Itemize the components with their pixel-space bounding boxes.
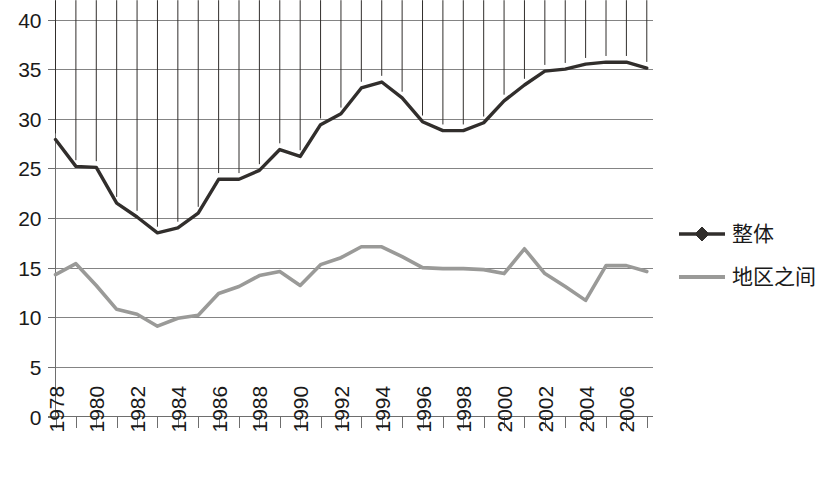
series-line [56,247,647,326]
chart-legend: 整体地区之间 [679,222,816,289]
x-axis-label-1996: 1996 [412,386,435,433]
y-axis-label-5: 5 [30,356,42,379]
x-axis-label-1992: 1992 [330,386,353,433]
y-axis-label-30: 30 [18,108,41,131]
x-axis-label-1998: 1998 [452,386,475,433]
chart-canvas: 0510152025303540 19781980198219841986198… [0,0,827,497]
x-axis-label-1988: 1988 [248,386,271,433]
y-axis-label-40: 40 [18,9,41,32]
y-axis-tick-labels: 0510152025303540 [18,9,41,429]
x-axis-label-1982: 1982 [126,386,149,433]
y-axis-label-20: 20 [18,207,41,230]
x-axis-label-2006: 2006 [615,386,638,433]
x-axis-label-1994: 1994 [371,385,394,432]
x-axis-label-1986: 1986 [208,386,231,433]
legend-item-between-regions[interactable]: 地区之间 [679,265,816,289]
legend-label: 整体 [732,222,774,246]
series-overall [56,0,647,233]
series-between-regions [56,247,647,326]
x-axis-label-2002: 2002 [534,386,557,433]
series-line [56,62,647,233]
x-axis-label-1990: 1990 [289,386,312,433]
legend-item-overall[interactable]: 整体 [679,222,774,246]
x-axis-label-2000: 2000 [493,386,516,433]
y-axis-label-15: 15 [18,257,41,280]
x-axis-label-1978: 1978 [45,386,68,433]
gridlines [56,21,653,368]
y-axis-label-0: 0 [30,406,42,429]
legend-label: 地区之间 [732,265,816,289]
x-axis-label-1984: 1984 [167,385,190,432]
x-axis-label-2004: 2004 [575,385,598,432]
y-axis-label-35: 35 [18,58,41,81]
y-axis-label-10: 10 [18,306,41,329]
x-axis-tick-labels: 1978198019821984198619881990199219941996… [45,385,638,432]
data-series [56,0,647,326]
line-chart: 0510152025303540 19781980198219841986198… [0,0,827,497]
y-axis-label-25: 25 [18,157,41,180]
legend-swatch-marker-diamond-icon [695,227,709,241]
x-axis-label-1980: 1980 [85,386,108,433]
